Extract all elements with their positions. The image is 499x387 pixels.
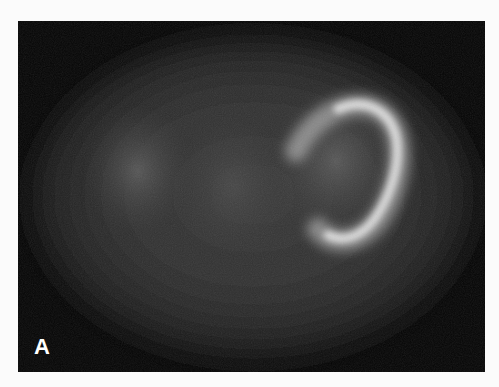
scintigraphy-image [18,21,485,372]
panel-label: A [34,336,50,358]
figure: A [0,0,499,387]
scintigraphy-image-panel: A [18,21,485,372]
